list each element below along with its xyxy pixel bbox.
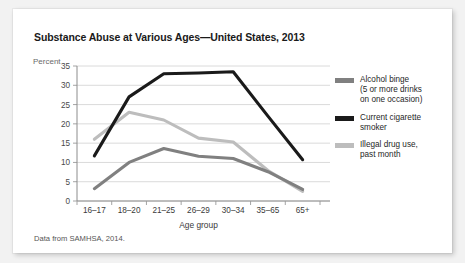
y-axis-tick-label: 15 <box>61 139 71 148</box>
chart-legend: Alcohol binge (5 or more drinks on one o… <box>335 75 447 167</box>
x-axis-tick-label: 26–29 <box>187 206 210 215</box>
x-axis-tick-label: 16–17 <box>83 206 106 215</box>
y-axis-tick-label: 20 <box>61 120 71 129</box>
x-axis-title: Age group <box>179 220 218 230</box>
legend-entry: Illegal drug use, past month <box>335 140 447 160</box>
legend-entry: Alcohol binge (5 or more drinks on one o… <box>335 75 447 106</box>
source-note: Data from SAMHSA, 2014. <box>34 234 125 243</box>
x-axis-tick-label: 65+ <box>296 206 310 215</box>
figure-card: Substance Abuse at Various Ages—United S… <box>13 9 452 253</box>
y-axis-tick-label: 5 <box>65 178 70 187</box>
x-axis-tick-label: 21–25 <box>152 206 175 215</box>
legend-label: Illegal drug use, past month <box>360 140 418 160</box>
legend-entry: Current cigarette smoker <box>335 113 447 133</box>
legend-swatch-icon <box>335 78 354 83</box>
legend-swatch-icon <box>335 143 354 148</box>
x-axis-tick-label: 18–20 <box>118 206 141 215</box>
y-axis-tick-label: 10 <box>61 158 71 167</box>
legend-label: Alcohol binge (5 or more drinks on one o… <box>360 75 422 106</box>
x-axis-tick-label: 30–34 <box>222 206 245 215</box>
legend-swatch-icon <box>335 116 354 121</box>
x-axis-tick-label: 35–65 <box>257 206 280 215</box>
y-axis-tick-label: 25 <box>61 101 71 110</box>
legend-label: Current cigarette smoker <box>360 113 421 133</box>
series-line-0 <box>94 149 302 190</box>
y-axis-tick-label: 35 <box>61 62 71 71</box>
y-axis-tick-label: 0 <box>65 197 70 206</box>
y-axis-tick-label: 30 <box>61 81 71 90</box>
